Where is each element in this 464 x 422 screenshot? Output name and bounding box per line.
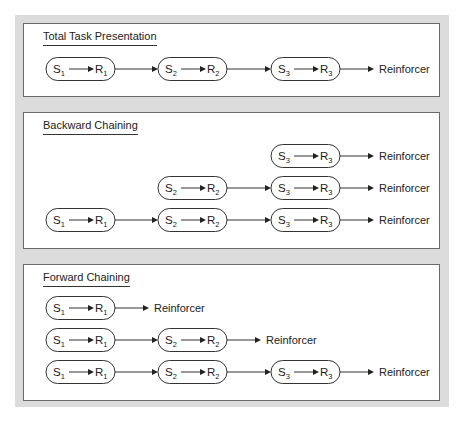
chain-row: S3R3Reinforcer (271, 145, 430, 168)
chain-row: S1R1S2R2S3R3Reinforcer (46, 58, 430, 81)
arrowhead-icon (265, 185, 271, 191)
stimulus-response-pair-3: S3R3 (271, 209, 340, 232)
stimulus-response-pair-2: S2R2 (158, 361, 227, 384)
stimulus-response-pair-1: S1R1 (46, 329, 115, 352)
panel-total-task-presentation: Total Task Presentation S1R1S2R2S3R3Rein… (23, 23, 440, 97)
stimulus-response-pair-1: S1R1 (46, 209, 115, 232)
stimulus-response-pair-2: S2R2 (158, 58, 227, 81)
stimulus-response-pair-1: S1R1 (46, 361, 115, 384)
stimulus-response-pair-3: S3R3 (271, 361, 340, 384)
panel-forward-chaining: Forward Chaining S1R1ReinforcerS1R1S2R2R… (23, 264, 440, 401)
chain-rows: S1R1ReinforcerS1R1S2R2ReinforcerS1R1S2R2… (24, 265, 441, 402)
arrowhead-icon (368, 66, 374, 72)
arrowhead-icon (265, 369, 271, 375)
arrowhead-icon (265, 217, 271, 223)
chain-row: S2R2S3R3Reinforcer (158, 177, 430, 200)
reinforcer-label: Reinforcer (379, 150, 430, 162)
reinforcer-label: Reinforcer (379, 63, 430, 75)
stimulus-response-pair-2: S2R2 (158, 329, 227, 352)
arrowhead-icon (368, 217, 374, 223)
arrowhead-icon (143, 305, 149, 311)
reinforcer-label: Reinforcer (154, 302, 205, 314)
chain-row: S1R1S2R2S3R3Reinforcer (46, 209, 430, 232)
reinforcer-label: Reinforcer (379, 214, 430, 226)
reinforcer-label: Reinforcer (266, 334, 317, 346)
arrowhead-icon (152, 369, 158, 375)
reinforcer-label: Reinforcer (379, 182, 430, 194)
chaining-diagram: Total Task Presentation S1R1S2R2S3R3Rein… (0, 0, 464, 422)
stimulus-response-pair-2: S2R2 (158, 177, 227, 200)
stimulus-response-pair-3: S3R3 (271, 58, 340, 81)
chain-row: S1R1S2R2S3R3Reinforcer (46, 361, 430, 384)
stimulus-response-pair-1: S1R1 (46, 58, 115, 81)
reinforcer-label: Reinforcer (379, 366, 430, 378)
arrowhead-icon (368, 369, 374, 375)
arrowhead-icon (368, 153, 374, 159)
arrowhead-icon (152, 337, 158, 343)
arrowhead-icon (152, 66, 158, 72)
arrowhead-icon (368, 185, 374, 191)
stimulus-response-pair-3: S3R3 (271, 145, 340, 168)
stimulus-response-pair-1: S1R1 (46, 297, 115, 320)
chain-rows: S3R3ReinforcerS2R2S3R3ReinforcerS1R1S2R2… (24, 113, 441, 250)
arrowhead-icon (255, 337, 261, 343)
arrowhead-icon (265, 66, 271, 72)
chain-rows: S1R1S2R2S3R3Reinforcer (24, 24, 441, 98)
stimulus-response-pair-3: S3R3 (271, 177, 340, 200)
arrowhead-icon (152, 217, 158, 223)
chain-row: S1R1S2R2Reinforcer (46, 329, 317, 352)
panel-backward-chaining: Backward Chaining S3R3ReinforcerS2R2S3R3… (23, 112, 440, 249)
chain-row: S1R1Reinforcer (46, 297, 205, 320)
stimulus-response-pair-2: S2R2 (158, 209, 227, 232)
